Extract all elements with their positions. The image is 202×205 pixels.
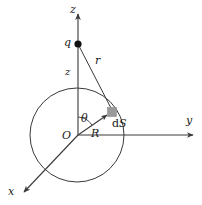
y-axis-label: y — [186, 115, 192, 126]
theta-angle-label: θ — [81, 113, 88, 124]
point-charge-dot — [74, 40, 81, 47]
surface-element-label: dS — [112, 118, 127, 129]
x-axis-label: x — [8, 186, 14, 197]
z-axis-label: z — [70, 4, 76, 15]
surface-element-patch — [108, 108, 117, 117]
surface-element-d-text: d — [112, 117, 119, 130]
physics-diagram-figure: z y x q z r θ O R dS — [0, 0, 202, 205]
x-axis-line — [24, 135, 78, 192]
surface-element-s-text: S — [119, 117, 127, 130]
charge-label: q — [64, 37, 71, 48]
diagram-canvas — [0, 0, 202, 205]
z-distance-label: z — [65, 67, 70, 77]
radius-label: R — [91, 128, 99, 139]
r-distance-label: r — [95, 55, 100, 66]
origin-label: O — [62, 130, 71, 141]
